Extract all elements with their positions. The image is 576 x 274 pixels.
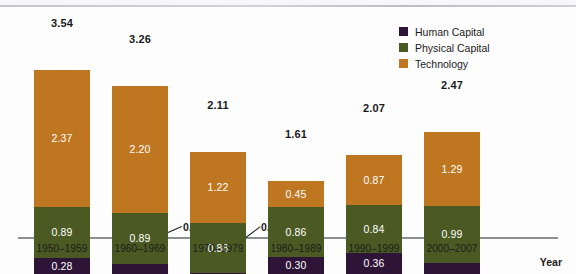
- bar-total-label: 1.61: [268, 128, 324, 140]
- legend-swatch-physical-capital: [399, 43, 408, 52]
- bar-segment-human_capital[interactable]: 0.30: [268, 257, 324, 274]
- callout-leader-line: [168, 226, 182, 233]
- legend-swatch-human-capital: [399, 27, 408, 36]
- legend-swatch-technology: [399, 59, 408, 68]
- legend-label-physical-capital: Physical Capital: [415, 42, 490, 54]
- bar-segment-technology[interactable]: 2.20: [112, 86, 168, 213]
- chart-legend: Human Capital Physical Capital Technolog…: [399, 24, 569, 72]
- bar-segment-technology[interactable]: 2.37: [34, 70, 90, 207]
- bar-total-label: 3.54: [34, 17, 90, 29]
- legend-item-physical-capital[interactable]: Physical Capital: [399, 40, 569, 55]
- bar-segment-physical_capital[interactable]: 0.99: [424, 206, 480, 263]
- legend-item-human-capital[interactable]: Human Capital: [399, 24, 569, 39]
- bar-segment-human_capital[interactable]: 0.28: [34, 258, 90, 274]
- bar-group[interactable]: 0.991.29: [424, 37, 480, 274]
- bar-segment-technology[interactable]: 0.45: [268, 181, 324, 207]
- bar-group[interactable]: 0.360.840.87: [346, 37, 402, 274]
- bar-segment-physical_capital[interactable]: 0.89: [112, 213, 168, 264]
- bar-group[interactable]: 0.881.22: [190, 37, 246, 274]
- chart-page: 0.280.892.373.541950–19590.892.203.26196…: [0, 0, 576, 274]
- bar-total-label: 2.47: [424, 79, 480, 91]
- bar-segment-human_capital[interactable]: [424, 263, 480, 274]
- bar-total-label: 2.07: [346, 102, 402, 114]
- bar-group[interactable]: 0.892.20: [112, 37, 168, 274]
- bar-group[interactable]: 0.280.892.37: [34, 37, 90, 274]
- legend-label-technology: Technology: [415, 58, 468, 70]
- bar-group[interactable]: 0.300.860.45: [268, 37, 324, 274]
- x-axis-title: Year: [540, 256, 562, 268]
- bar-total-label: 2.11: [190, 99, 246, 111]
- bar-total-label: 3.26: [112, 33, 168, 45]
- callout-leader-line: [246, 226, 261, 237]
- x-axis-tick-label: 2000–2007: [406, 243, 498, 254]
- bar-segment-technology[interactable]: 0.87: [346, 155, 402, 205]
- bar-segment-human_capital[interactable]: 0.36: [346, 253, 402, 274]
- bar-segment-human_capital[interactable]: [112, 264, 168, 274]
- legend-label-human-capital: Human Capital: [415, 26, 484, 38]
- bar-segment-technology[interactable]: 1.29: [424, 132, 480, 206]
- legend-item-technology[interactable]: Technology: [399, 56, 569, 71]
- bar-segment-technology[interactable]: 1.22: [190, 152, 246, 222]
